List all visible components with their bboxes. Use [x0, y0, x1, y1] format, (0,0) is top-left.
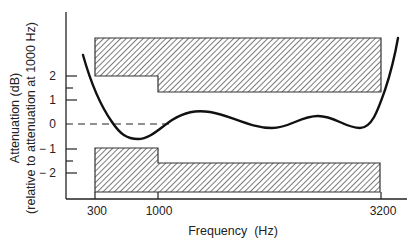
- y-axis-title: Attenuation (dB): [8, 73, 22, 163]
- x-tick-label-1000: 1000: [146, 204, 173, 218]
- y-axis-subtitle: (relative to attenuation at 1000 Hz): [24, 22, 38, 214]
- y-tick-label-neg2: − 2: [39, 166, 56, 180]
- y-tick-label-neg1: − 1: [39, 142, 56, 156]
- y-tick-label-0: 0: [49, 117, 56, 131]
- x-tick-label-3200: 3200: [370, 204, 397, 218]
- x-ticks: [95, 192, 381, 199]
- attenuation-chart: 2 1 0 − 1 − 2 300 1000 3200 Frequency (H…: [0, 0, 416, 242]
- upper-limit-mask: [95, 38, 381, 92]
- y-tick-label-2: 2: [49, 69, 56, 83]
- y-tick-label-1: 1: [49, 93, 56, 107]
- x-tick-label-300: 300: [87, 204, 107, 218]
- lower-limit-mask: [95, 148, 380, 192]
- x-axis-title: Frequency (Hz): [188, 224, 278, 238]
